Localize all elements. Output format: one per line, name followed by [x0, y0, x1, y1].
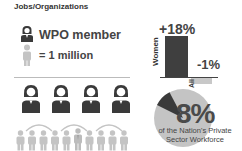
legend-member-label: WPO member — [39, 28, 121, 42]
pie-caption-line2: Sector Workforce — [150, 135, 240, 144]
women-value-label: +18% — [159, 21, 195, 37]
pie-caption-line1: of the Nation's Private — [150, 126, 240, 135]
legend-scale-label: = 1 million — [39, 49, 93, 61]
all-category-label: All — [188, 79, 195, 88]
all-value-label: -1% — [197, 57, 220, 72]
people-illustration — [14, 85, 130, 151]
women-category-label: Women — [151, 37, 160, 66]
bar-women — [165, 36, 188, 78]
divider — [14, 77, 130, 78]
woman-member-icon — [20, 25, 34, 42]
section-title: Jobs/Organizations — [14, 2, 88, 11]
person-scale-icon — [22, 44, 32, 66]
